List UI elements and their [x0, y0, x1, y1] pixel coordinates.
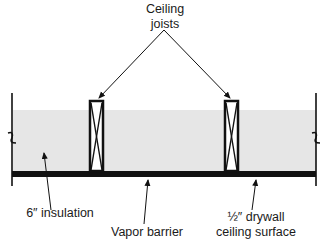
- ceiling-joists-label-line2: joists: [138, 17, 192, 32]
- drywall-ceiling-bar: [12, 171, 316, 177]
- ceiling-joists-label-line1: Ceiling: [138, 2, 192, 17]
- drywall-label-line2: ceiling surface: [206, 225, 306, 240]
- vapor-barrier-label: Vapor barrier: [107, 225, 187, 240]
- drywall-label-line1: ½″ drywall: [206, 210, 306, 225]
- drywall-label: ½″ drywall ceiling surface: [206, 210, 306, 240]
- joist-leader-right: [164, 30, 230, 98]
- joist-leader-left: [99, 30, 164, 98]
- vapor-barrier-leader: [144, 180, 148, 224]
- insulation-layer: [13, 110, 316, 171]
- ceiling-joist-1: [90, 101, 103, 171]
- ceiling-joists-label: Ceiling joists: [138, 2, 192, 32]
- insulation-label: 6″ insulation: [20, 206, 100, 221]
- drywall-leader: [252, 180, 256, 210]
- ceiling-joist-2: [225, 101, 238, 171]
